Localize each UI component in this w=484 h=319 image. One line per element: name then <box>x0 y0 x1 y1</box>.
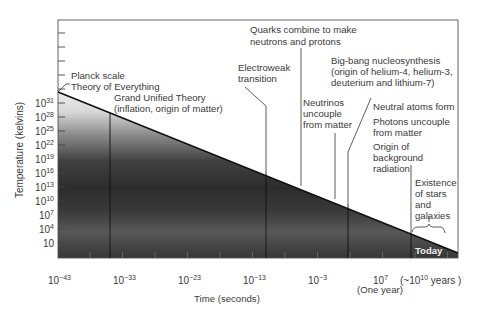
label-recombination: Neutral atoms form Photons uncouple from… <box>373 101 457 174</box>
y-tick-label: 1031 <box>35 97 54 109</box>
label-quarks: Quarks combine to make neutrons and prot… <box>250 24 359 47</box>
y-tick-label: 104 <box>39 223 54 235</box>
y-tick-label: 107 <box>39 209 54 221</box>
label-neutrinos: Neutrinos uncouple from matter <box>303 97 353 130</box>
y-tick-label: 1016 <box>35 167 54 179</box>
x-tick-label: 10−33 <box>113 274 136 286</box>
x-tick-label: 10−23 <box>178 274 201 286</box>
label-gut: Grand Unified Theory (inflation, origin … <box>114 92 223 114</box>
y-axis-labels: 1031102810251022101910161013101010710410 <box>35 97 54 249</box>
y-tick-label: 1025 <box>35 125 54 137</box>
x-axis-title: Time (seconds) <box>194 293 260 304</box>
y-tick-label: 1010 <box>35 195 54 207</box>
y-tick-label: 1013 <box>35 181 54 193</box>
y-tick-label: 10 <box>43 238 55 249</box>
y-tick-label: 1019 <box>35 153 54 165</box>
y-tick-label: 1022 <box>35 139 54 151</box>
electroweak-leader <box>245 87 266 172</box>
label-stars: Existence of stars and galaxies <box>415 177 459 221</box>
y-axis-title: Temperature (kelvins) <box>14 102 25 198</box>
one-year-label: (One year) <box>357 284 403 295</box>
nucleosynthesis-leader <box>348 98 371 204</box>
y-tick-label: 1028 <box>35 111 54 123</box>
x-tick-label: 10−43 <box>48 274 71 286</box>
planck-leader <box>58 84 70 92</box>
label-nucleosynthesis: Big-bang nucleosynthesis (origin of heli… <box>331 55 455 88</box>
today-label: Today <box>415 245 443 256</box>
x-axis-labels: 10−4310−3310−2310−1310−3107 <box>48 274 388 286</box>
cosmic-temperature-diagram: Planck scale Theory of Everything Grand … <box>0 0 484 319</box>
x-tick-label: 10−3 <box>308 274 327 286</box>
x-tick-label: 10−13 <box>243 274 266 286</box>
label-electroweak: Electroweak transition <box>238 62 293 84</box>
years-label: (~1010 years ) <box>400 274 461 286</box>
stars-brace <box>412 224 445 233</box>
label-planck: Planck scale Theory of Everything <box>71 70 160 92</box>
